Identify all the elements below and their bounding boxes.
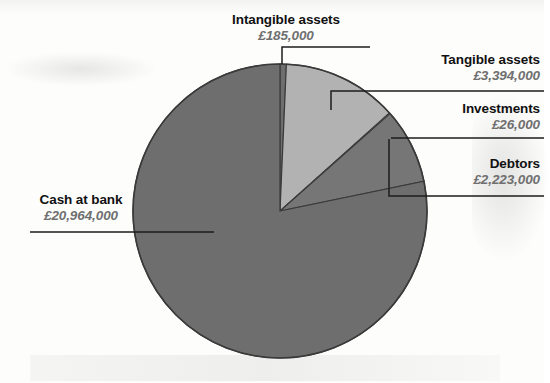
label-intangible-assets: Intangible assets £185,000 (196, 12, 376, 43)
label-investments: Investments £26,000 (368, 101, 540, 132)
label-debtors: Debtors £2,223,000 (368, 156, 540, 187)
label-cash-at-bank-name: Cash at bank (6, 192, 156, 207)
label-investments-value: £26,000 (368, 117, 540, 132)
label-cash-at-bank-value: £20,964,000 (6, 208, 156, 223)
label-tangible-assets: Tangible assets £3,394,000 (368, 52, 540, 83)
label-cash-at-bank: Cash at bank £20,964,000 (6, 192, 156, 223)
label-intangible-assets-name: Intangible assets (196, 12, 376, 27)
label-intangible-assets-value: £185,000 (196, 28, 376, 43)
label-tangible-assets-value: £3,394,000 (368, 68, 540, 83)
label-debtors-value: £2,223,000 (368, 172, 540, 187)
label-tangible-assets-name: Tangible assets (368, 52, 540, 67)
leader-line-intangible (282, 47, 370, 64)
label-debtors-name: Debtors (368, 156, 540, 171)
label-investments-name: Investments (368, 101, 540, 116)
